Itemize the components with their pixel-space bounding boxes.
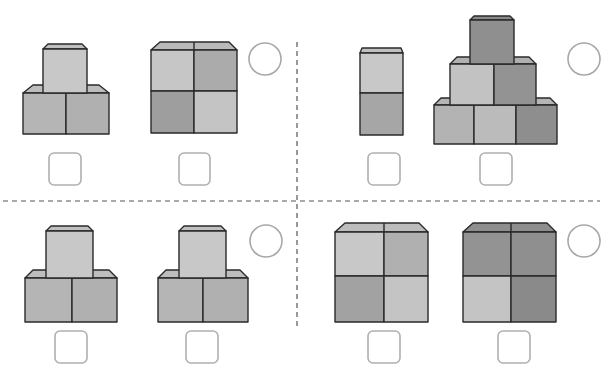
- panel-top-left: [23, 42, 281, 185]
- figure-pyramid-3-2-1: [434, 16, 557, 144]
- worksheet-canvas: .ol { stroke:#2a2a2a; stroke-width:1.4; …: [0, 0, 614, 376]
- figure-grid-2x2-light: [335, 223, 428, 322]
- figure-stack-2-1: [158, 226, 248, 322]
- figure-grid-2x2: [151, 42, 237, 133]
- figure-stack-2-1: [23, 44, 109, 134]
- answer-box[interactable]: [186, 331, 218, 363]
- answer-box[interactable]: [368, 331, 400, 363]
- panel-top-right: [360, 16, 600, 185]
- panel-bottom-right: [335, 223, 600, 363]
- answer-circle[interactable]: [568, 43, 600, 75]
- figure-stack-2-1: [25, 226, 117, 322]
- answer-circle[interactable]: [250, 225, 282, 257]
- answer-box[interactable]: [49, 153, 81, 185]
- answer-box[interactable]: [480, 153, 512, 185]
- figure-column-2: [360, 48, 403, 135]
- answer-circle[interactable]: [568, 225, 600, 257]
- figure-grid-2x2-dark: [463, 223, 556, 322]
- answer-box[interactable]: [55, 331, 87, 363]
- answer-circle[interactable]: [249, 43, 281, 75]
- answer-box[interactable]: [368, 153, 400, 185]
- answer-box[interactable]: [498, 331, 530, 363]
- answer-box[interactable]: [179, 153, 210, 185]
- panel-bottom-left: [25, 225, 282, 363]
